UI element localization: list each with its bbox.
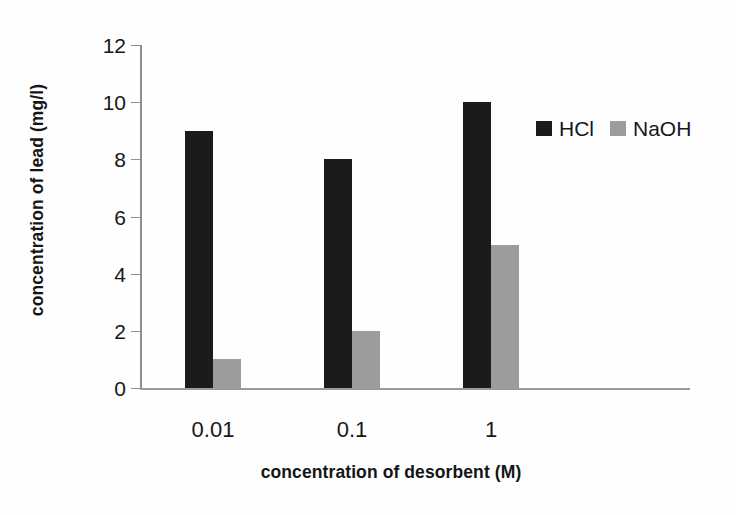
bar-naoh-1 — [491, 245, 519, 388]
y-tick-mark — [131, 388, 140, 389]
y-tick-label: 12 — [103, 35, 126, 56]
gray-square-swatch — [610, 121, 626, 136]
y-tick-label: 8 — [114, 149, 126, 170]
bar-hcl-1 — [463, 102, 491, 388]
y-tick-label: 0 — [114, 378, 126, 399]
y-tick-mark — [131, 159, 140, 160]
x-axis-line — [140, 388, 690, 390]
bar-hcl-0.1 — [324, 159, 352, 388]
y-tick-mark — [131, 331, 140, 332]
x-tick-label-0.1: 0.1 — [337, 417, 368, 443]
x-tick-label-1: 1 — [485, 417, 497, 443]
y-tick-label: 10 — [103, 92, 126, 113]
legend-item-hcl[interactable]: HCl — [536, 118, 594, 139]
legend-label-naoh: NaOH — [633, 118, 691, 139]
black-square-swatch — [536, 121, 552, 136]
y-axis-line — [140, 45, 142, 389]
y-tick-label: 6 — [114, 206, 126, 227]
chart-legend: HClNaOH — [536, 118, 691, 139]
bar-hcl-0.01 — [185, 131, 213, 388]
y-tick-mark — [131, 102, 140, 103]
y-tick-mark — [131, 274, 140, 275]
bar-naoh-0.01 — [213, 359, 241, 388]
x-tick-label-0.01: 0.01 — [192, 417, 235, 443]
y-tick-label: 4 — [114, 263, 126, 284]
plot-area: 024681012 0.010.11 — [140, 45, 690, 388]
y-tick-mark — [131, 45, 140, 46]
y-tick-label: 2 — [114, 320, 126, 341]
bar-naoh-0.1 — [352, 331, 380, 388]
y-axis-title: concentration of lead (mg/l) — [14, 0, 60, 400]
legend-item-naoh[interactable]: NaOH — [610, 118, 691, 139]
bar-chart-figure: concentration of lead (mg/l) 024681012 0… — [0, 0, 736, 515]
y-tick-mark — [131, 217, 140, 218]
x-axis-title: concentration of desorbent (M) — [0, 462, 736, 483]
legend-label-hcl: HCl — [559, 118, 594, 139]
